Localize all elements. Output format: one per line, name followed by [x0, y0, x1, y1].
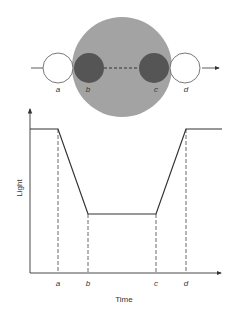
orbit-label-b: b — [86, 85, 91, 94]
small-star-position-a — [43, 53, 73, 83]
orbit-label-d: d — [184, 85, 189, 94]
y-axis-label: Light — [15, 179, 24, 197]
light-curve-chart: a b c d Time Light — [15, 109, 222, 304]
x-tick-b: b — [86, 279, 91, 288]
small-star-position-c — [139, 53, 169, 83]
orbit-label-a: a — [56, 85, 61, 94]
x-axis-label: Time — [115, 295, 133, 304]
guide-lines — [58, 129, 186, 273]
orbit-label-c: c — [154, 85, 158, 94]
small-star-position-b — [74, 53, 104, 83]
eclipse-diagram: a b c d a b c d Time Light — [0, 0, 235, 317]
light-curve — [30, 129, 222, 214]
small-star-position-d — [170, 53, 200, 83]
x-tick-c: c — [154, 279, 158, 288]
orbit-illustration: a b c d — [31, 17, 219, 117]
x-tick-a: a — [56, 279, 61, 288]
x-tick-d: d — [184, 279, 189, 288]
